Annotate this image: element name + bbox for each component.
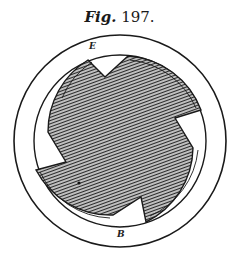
label-b: B bbox=[117, 229, 125, 239]
figure-drawing bbox=[0, 0, 239, 267]
label-e: E bbox=[89, 41, 96, 51]
reference-dot bbox=[77, 181, 80, 184]
